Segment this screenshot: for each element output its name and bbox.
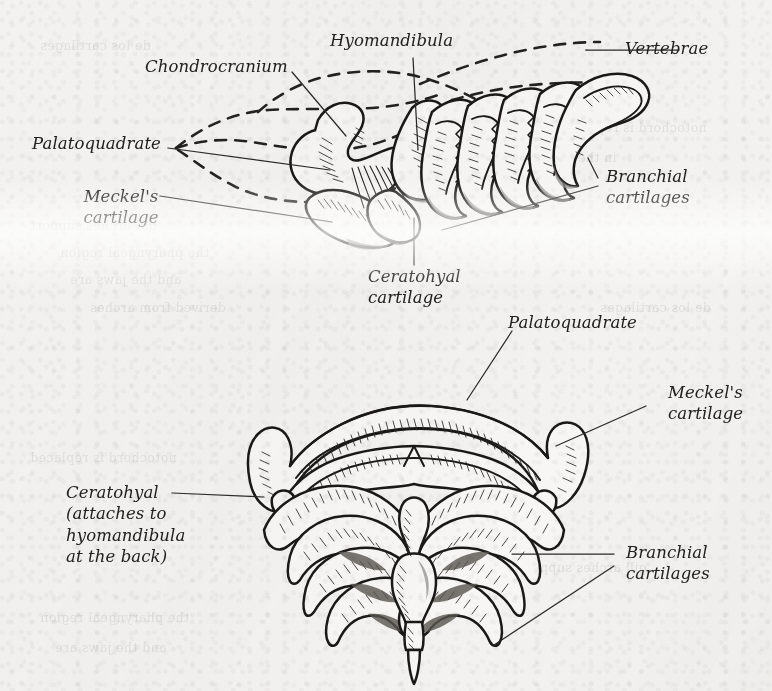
label-ceratohyal-cartilage-lateral: Ceratohyal cartilage <box>368 266 461 309</box>
label-palatoquadrate-lateral: Palatoquadrate <box>32 133 161 154</box>
ventral-view-group <box>248 406 588 684</box>
label-branchial-cartilages-lateral: Branchial cartilages <box>606 166 690 209</box>
label-palatoquadrate-ventral: Palatoquadrate <box>508 312 637 333</box>
leader-palatoquadrate-bottom <box>467 331 512 400</box>
label-meckels-cartilage-lateral: Meckel's cartilage <box>82 186 160 229</box>
label-vertebrae: Vertebrae <box>625 38 708 59</box>
label-chondrocranium: Chondrocranium <box>145 56 288 77</box>
leader-branchial-top-a <box>588 158 598 178</box>
label-ceratohyal-ventral: Ceratohyal (attaches to hyomandibula at … <box>66 482 185 568</box>
figure-page: de los cartilages notochord is replaced … <box>0 0 772 691</box>
label-branchial-cartilages-ventral: Branchial cartilages <box>626 542 710 585</box>
anatomical-illustration <box>0 0 772 691</box>
basibranchial-midline <box>392 498 436 685</box>
label-hyomandibula: Hyomandibula <box>330 30 453 51</box>
leader-ceratohyal-bottom <box>172 493 264 497</box>
label-meckels-cartilage-ventral: Meckel's cartilage <box>668 382 743 425</box>
